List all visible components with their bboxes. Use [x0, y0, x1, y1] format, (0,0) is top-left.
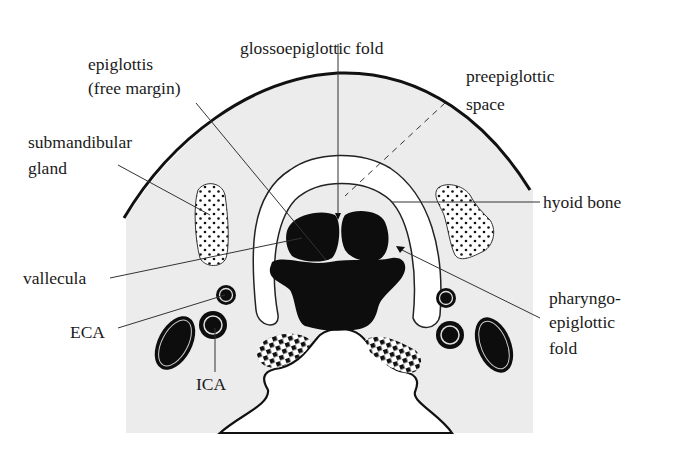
label-ica: ICA [196, 374, 227, 394]
submandibular-gland-left [195, 184, 228, 266]
vallecula-right [341, 211, 388, 261]
label-epiglottic: epiglottic [549, 312, 615, 332]
label-hyoid-bone: hyoid bone [543, 192, 621, 212]
label-epiglottis: epiglottis [88, 54, 153, 74]
label-glossoepiglottic-fold: glossoepiglottic fold [240, 38, 384, 58]
label-eca: ECA [70, 322, 105, 342]
label-submandibular: submandibular [28, 132, 132, 152]
ica-right [436, 321, 464, 349]
label-pharyngo: pharyngo- [549, 288, 621, 308]
eca-left [216, 285, 236, 305]
label-vallecula: vallecula [23, 268, 86, 288]
label-fold: fold [549, 338, 577, 358]
label-epiglottis-free-margin: (free margin) [88, 78, 181, 98]
label-preepiglottic: preepiglottic [466, 66, 555, 86]
label-gland: gland [28, 158, 67, 178]
eca-right [436, 288, 456, 308]
label-preepiglottic-space: space [466, 94, 505, 114]
ica-left [199, 311, 227, 339]
anatomy-diagram: glossoepiglottic fold epiglottis (free m… [0, 0, 677, 454]
